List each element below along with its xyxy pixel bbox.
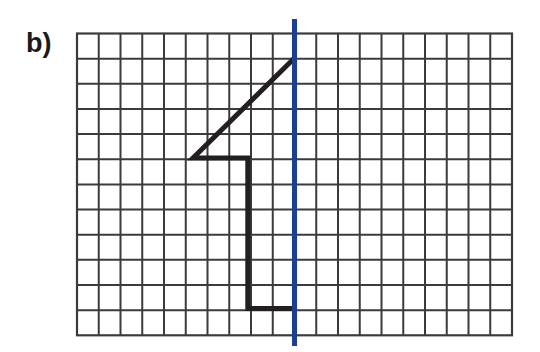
grid-figure-svg	[0, 0, 540, 352]
figure-canvas: b)	[0, 0, 540, 352]
